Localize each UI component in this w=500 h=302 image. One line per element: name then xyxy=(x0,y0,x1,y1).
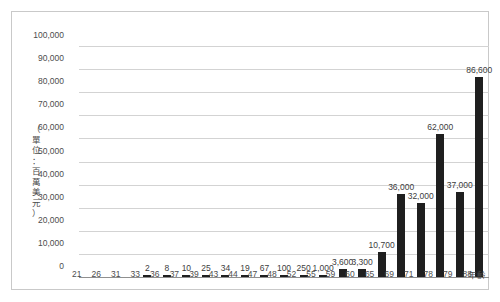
y-axis-tick-label: 50,000 xyxy=(6,146,64,156)
x-axis-tick-label: 36 xyxy=(150,269,159,279)
bar xyxy=(475,77,483,277)
y-axis-tick-label: 20,000 xyxy=(6,215,64,225)
x-axis-tick-label: 52 xyxy=(287,269,296,279)
bar-value-label: 32,000 xyxy=(408,191,434,201)
bar xyxy=(397,194,405,277)
bar-value-label: 62,000 xyxy=(427,122,453,132)
gridline xyxy=(79,138,489,139)
bar xyxy=(456,192,464,277)
x-axis-tick-label: 39 xyxy=(189,269,198,279)
y-axis-tick-label: 40,000 xyxy=(6,169,64,179)
gridline xyxy=(79,46,489,47)
x-axis-tick-label: 55 xyxy=(306,269,315,279)
gridline xyxy=(79,115,489,116)
y-axis-tick-label: 30,000 xyxy=(6,192,64,202)
bar-value-label: 3,300 xyxy=(351,257,372,267)
x-axis-tick-label: 43 xyxy=(209,269,218,279)
x-axis-tick-label: 48 xyxy=(267,269,276,279)
bar-value-label: 10,700 xyxy=(369,240,395,250)
y-axis-tick-label: 60,000 xyxy=(6,122,64,132)
x-axis-tick-label: 37 xyxy=(170,269,179,279)
x-axis-tick-label: 71 xyxy=(404,269,413,279)
gridline xyxy=(79,254,489,255)
y-axis-title-char: 單 xyxy=(29,135,43,146)
x-axis-tick-label: 78 xyxy=(423,269,432,279)
bar-value-label: 37,000 xyxy=(447,180,473,190)
y-axis-tick-label: 10,000 xyxy=(6,238,64,248)
x-axis-tick-label: 79 xyxy=(443,269,452,279)
y-axis-tick-label: 80,000 xyxy=(6,76,64,86)
bar-value-label: 86,600 xyxy=(466,65,492,75)
gridline xyxy=(79,185,489,186)
gridline xyxy=(79,92,489,93)
x-axis-tick-label: 33 xyxy=(131,269,140,279)
gridline xyxy=(79,162,489,163)
gridline xyxy=(79,208,489,209)
x-axis-tick-label: 47 xyxy=(248,269,257,279)
bar-value-label: 3,600 xyxy=(332,257,353,267)
x-axis-tick-label: 59 xyxy=(326,269,335,279)
x-axis-tick-label: 21 xyxy=(72,269,81,279)
bar xyxy=(436,134,444,277)
x-axis-tick-label: 26 xyxy=(92,269,101,279)
plot-area: 2810253419671002501,0003,6003,30010,7003… xyxy=(79,46,489,277)
x-axis-tick-label: 31 xyxy=(111,269,120,279)
gridline xyxy=(79,231,489,232)
chart-frame: （單位：百萬美元） 2810253419671002501,0003,6003,… xyxy=(11,11,489,290)
x-axis-tick-label: 60 xyxy=(345,269,354,279)
x-axis-title: 年齡 xyxy=(468,268,486,280)
gridline xyxy=(79,69,489,70)
y-axis-tick-label: 100,000 xyxy=(6,30,64,40)
chart-screenshot: （單位：百萬美元） 2810253419671002501,0003,6003,… xyxy=(0,0,500,302)
x-axis-tick-label: 44 xyxy=(228,269,237,279)
y-axis-tick-label: 70,000 xyxy=(6,99,64,109)
x-axis-tick-labels: 2126313336373943444748525559606569717879… xyxy=(0,269,500,283)
x-axis-tick-label: 69 xyxy=(384,269,393,279)
bar xyxy=(417,203,425,277)
y-axis-title-char: ： xyxy=(29,156,43,167)
x-axis-tick-label: 65 xyxy=(365,269,374,279)
y-axis-tick-label: 90,000 xyxy=(6,53,64,63)
